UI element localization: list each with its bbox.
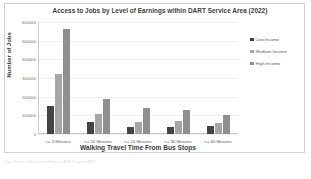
legend-item[interactable]: High Income <box>250 61 304 66</box>
gridline <box>38 134 238 135</box>
bar[interactable] <box>207 126 214 134</box>
bar-group: <= 60 Minutes <box>198 22 238 134</box>
legend-label: Medium Income <box>256 49 287 54</box>
bar-group: <= 10 Minutes <box>78 22 118 134</box>
y-tick-label: 0 <box>2 132 36 137</box>
y-tick-label: 500000 <box>2 38 36 43</box>
bar[interactable] <box>215 123 222 134</box>
y-tick-label: 100000 <box>2 113 36 118</box>
bar[interactable] <box>223 115 230 134</box>
legend-label: Low Income <box>256 37 280 42</box>
source-note: Data Source: U.S. Census Bureau, LEHD Pr… <box>5 160 95 164</box>
y-tick-label: 300000 <box>2 76 36 81</box>
legend-swatch-icon <box>250 50 254 54</box>
bar[interactable] <box>87 122 94 134</box>
bar-group: <= 30 Minutes <box>158 22 198 134</box>
bar[interactable] <box>175 121 182 134</box>
bar[interactable] <box>95 114 102 134</box>
x-axis-title: Walking Travel Time From Bus Stops <box>38 144 238 151</box>
bar-groups: <= 5 Minutes<= 10 Minutes<= 15 Minutes<=… <box>38 22 238 134</box>
legend-item[interactable]: Medium Income <box>250 49 304 54</box>
bar-group: <= 5 Minutes <box>38 22 78 134</box>
bar[interactable] <box>103 99 110 134</box>
legend-label: High Income <box>256 61 281 66</box>
bar[interactable] <box>135 122 142 134</box>
legend-swatch-icon <box>250 62 254 66</box>
bar[interactable] <box>63 29 70 134</box>
bar[interactable] <box>143 108 150 135</box>
y-axis-tick-labels: 0100000200000300000400000500000600000 <box>0 22 36 134</box>
legend-item[interactable]: Low Income <box>250 37 304 42</box>
bar[interactable] <box>127 127 134 134</box>
bar[interactable] <box>55 74 62 134</box>
y-tick-label: 600000 <box>2 20 36 25</box>
chart-legend: Low IncomeMedium IncomeHigh Income <box>250 37 304 73</box>
chart-title: Access to Jobs by Level of Earnings with… <box>0 7 311 14</box>
bar[interactable] <box>47 106 54 134</box>
y-tick-label: 200000 <box>2 94 36 99</box>
legend-swatch-icon <box>250 38 254 42</box>
y-tick-label: 400000 <box>2 57 36 62</box>
bar[interactable] <box>167 127 174 134</box>
bar[interactable] <box>183 110 190 134</box>
bar-group: <= 15 Minutes <box>118 22 158 134</box>
